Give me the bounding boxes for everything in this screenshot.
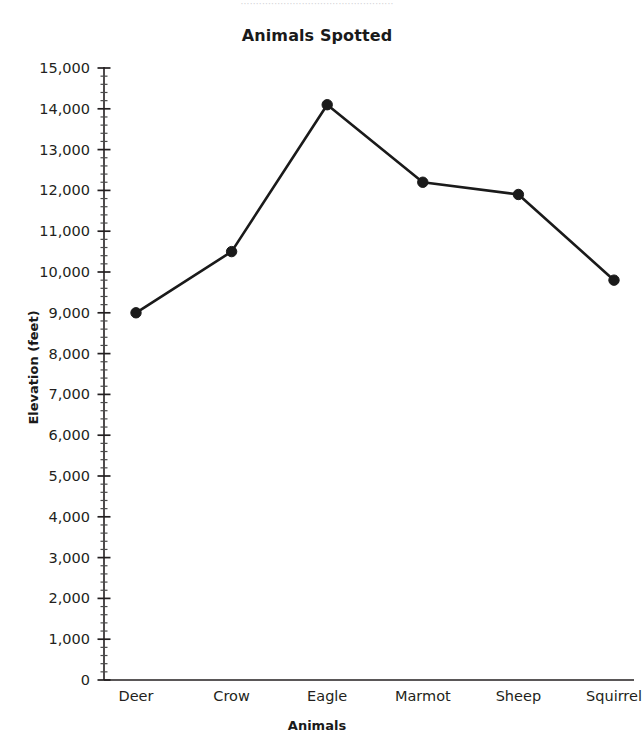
axes: [104, 67, 634, 680]
data-point-marker: [322, 100, 332, 110]
x-axis-title: Animals: [0, 718, 634, 733]
data-point-marker: [609, 275, 619, 285]
data-point-marker: [226, 246, 236, 256]
x-axis-tick-label: Deer: [119, 688, 154, 704]
data-point-marker: [131, 308, 141, 318]
x-axis-tick-label: Marmot: [395, 688, 451, 704]
x-axis-tick-label: Sheep: [496, 688, 541, 704]
data-series: [131, 100, 619, 318]
data-point-marker: [418, 177, 428, 187]
x-axis-tick-label: Eagle: [307, 688, 347, 704]
series-line-elevation: [136, 105, 614, 313]
x-axis-tick-label: Squirrel: [586, 688, 642, 704]
x-axis-tick-label: Crow: [213, 688, 250, 704]
x-axis-tick-labels: DeerCrowEagleMarmotSheepSquirrel: [0, 688, 634, 712]
data-point-marker: [513, 189, 523, 199]
